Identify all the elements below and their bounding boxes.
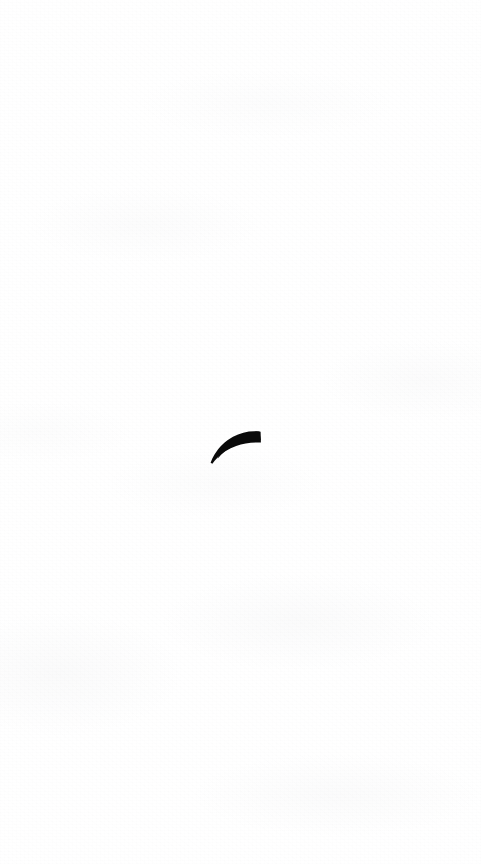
paper-grain-texture — [0, 0, 481, 864]
brush-stroke-icon — [0, 0, 481, 864]
ink-mark-layer — [0, 0, 481, 864]
brush-stroke-path — [211, 431, 261, 464]
brush-stroke-body-path — [218, 432, 261, 459]
paper-speckle-texture — [0, 0, 481, 864]
scanned-page — [0, 0, 481, 864]
